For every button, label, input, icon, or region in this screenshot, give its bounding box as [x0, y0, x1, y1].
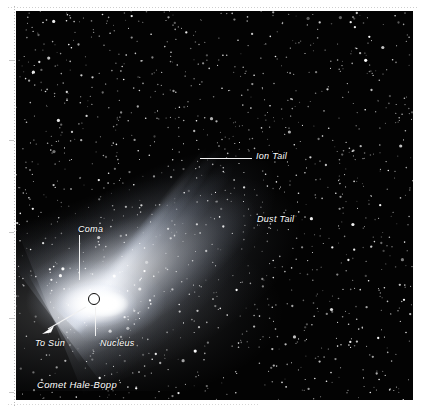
to-sun-label: To Sun — [35, 338, 65, 348]
annotation-layer: Ion Tail Dust Tail Coma Nucleus To Sun C… — [16, 11, 413, 400]
margin-rule-bottom — [8, 404, 258, 405]
margin-tick — [9, 392, 14, 393]
dust-tail-label: Dust Tail — [257, 214, 294, 224]
ion-tail-leader-line — [200, 158, 252, 159]
ion-tail-label: Ion Tail — [256, 151, 287, 161]
figure-page: Ion Tail Dust Tail Coma Nucleus To Sun C… — [0, 0, 427, 413]
margin-tick — [9, 318, 14, 319]
margin-tick — [9, 60, 14, 61]
margin-tick — [9, 232, 14, 233]
margin-tick — [9, 140, 14, 141]
arrow-down-left-icon — [28, 301, 98, 343]
comet-photograph: Ion Tail Dust Tail Coma Nucleus To Sun C… — [16, 11, 413, 400]
nucleus-label: Nucleus — [100, 338, 135, 348]
margin-rule-left — [14, 6, 15, 406]
coma-label: Coma — [78, 224, 103, 234]
coma-leader-line — [79, 235, 80, 280]
figure-caption: Comet Hale-Bopp — [37, 379, 117, 390]
margin-rule-top — [8, 7, 418, 8]
